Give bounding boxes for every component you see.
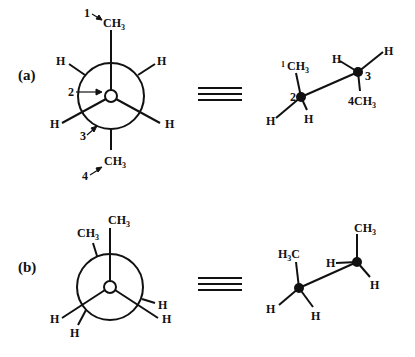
panel-b-label: (b) <box>18 259 36 276</box>
arrow-1-head-icon <box>96 15 102 20</box>
c2-ch3-label: 1CH3 <box>281 59 309 75</box>
back-ch3-label: CH3 <box>104 154 126 170</box>
back-bond-lower-left <box>78 310 86 325</box>
number-1: 1 <box>84 6 90 20</box>
panel-a-label: (a) <box>18 67 36 84</box>
back-bond-upper-left <box>93 243 97 256</box>
panel-b: (b) CH3 CH3 H H H H <box>18 213 380 340</box>
front-bond-lower-left <box>62 99 106 123</box>
h-lower-right: H <box>165 117 175 131</box>
h-lower-left-back: H <box>70 326 80 340</box>
front-carbon-center <box>105 90 117 102</box>
h-lower-left: H <box>50 117 60 131</box>
front-bond-lower-right <box>115 290 158 318</box>
front-ch3-label: CH3 <box>108 213 130 229</box>
number-2: 2 <box>68 85 74 99</box>
c3-ch3-label: 4CH3 <box>348 94 376 110</box>
carbon-3-atom <box>353 67 363 77</box>
newman-sawhorse-diagram: (a) CH3 1 H H H H 2 3 <box>0 0 415 357</box>
c3-h-right: H <box>384 44 394 58</box>
equivalence-symbol-a <box>198 88 242 100</box>
arrow-4-shaft <box>90 170 98 175</box>
c2-h-left: H <box>266 114 276 128</box>
h-upper-left: H <box>56 54 66 68</box>
front-bond-lower-right <box>116 99 160 123</box>
front-ch3-label: CH3 <box>103 16 125 32</box>
back-bond-right <box>142 299 155 303</box>
back-bond-upper-right <box>138 64 155 75</box>
carbon-2-atom <box>296 92 306 102</box>
c3-h-left: H <box>326 256 336 270</box>
carbon-2-atom <box>294 283 304 293</box>
back-ch3-label: CH3 <box>77 226 99 242</box>
c3-h-left: H <box>332 52 342 66</box>
equivalence-symbol-b <box>198 278 242 290</box>
number-3: 3 <box>80 129 86 143</box>
sawhorse-projection-a: 1CH3 2 H H H H 3 4CH3 <box>266 44 394 128</box>
h-upper-right: H <box>157 54 167 68</box>
c2-h-right: H <box>304 112 314 126</box>
c2-h3c-label: H3C <box>278 247 300 263</box>
back-bond-upper-left <box>69 64 85 75</box>
c3-number: 3 <box>365 69 371 83</box>
h-right-back: H <box>158 298 168 312</box>
newman-projection-b: CH3 CH3 H H H H <box>50 213 172 340</box>
h-lower-right: H <box>162 312 172 326</box>
arrow-2-head-icon <box>96 89 102 95</box>
front-carbon-center <box>104 281 116 293</box>
carbon-3-atom <box>352 257 362 267</box>
h-lower-left: H <box>50 312 60 326</box>
c3-h-right: H <box>370 278 380 292</box>
c2-number: 2 <box>290 90 296 104</box>
newman-projection-a: CH3 1 H H H H 2 3 CH3 4 <box>50 6 175 183</box>
number-4: 4 <box>82 169 88 183</box>
c2-h-left: H <box>266 302 276 316</box>
sawhorse-projection-b: H3C H H CH3 H H <box>266 221 380 323</box>
c2-h-right: H <box>311 309 321 323</box>
panel-a: (a) CH3 1 H H H H 2 3 <box>18 6 394 183</box>
c3-ch3-label: CH3 <box>354 221 376 237</box>
